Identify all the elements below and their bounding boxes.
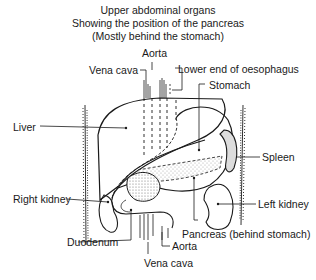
label-oesophagus: Lower end of oesophagus bbox=[178, 63, 299, 75]
label-spleen: Spleen bbox=[262, 151, 295, 163]
label-aorta-bottom: Aorta bbox=[172, 240, 197, 252]
vessels-top bbox=[144, 78, 170, 98]
pancreas-head bbox=[127, 172, 160, 201]
liver-shape bbox=[98, 98, 225, 200]
vessels-bottom bbox=[140, 214, 168, 240]
label-stomach: Stomach bbox=[209, 79, 250, 91]
label-aorta-top: Aorta bbox=[142, 47, 167, 59]
label-liver: Liver bbox=[13, 121, 36, 133]
label-pancreas: Pancreas (behind stomach) bbox=[182, 228, 310, 240]
left-body-wall bbox=[240, 105, 245, 225]
label-duodenum: Duodenum bbox=[67, 236, 118, 248]
right-kidney-shape bbox=[99, 195, 117, 232]
right-body-wall bbox=[83, 105, 88, 245]
label-left-kidney: Left kidney bbox=[258, 198, 309, 210]
label-right-kidney: Right kidney bbox=[13, 193, 71, 205]
spleen-shape bbox=[220, 130, 237, 172]
left-kidney-shape bbox=[204, 184, 233, 229]
label-vena-cava-bottom: Vena cava bbox=[144, 257, 193, 269]
label-vena-cava-top: Vena cava bbox=[89, 64, 138, 76]
